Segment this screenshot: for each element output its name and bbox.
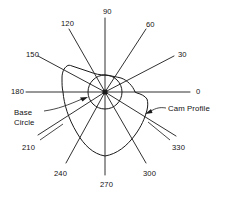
base-circle-leader-line — [44, 99, 82, 111]
radial-line-210 — [38, 92, 105, 135]
radial-line-30 — [105, 56, 174, 92]
angle-label-180: 180 — [11, 88, 24, 96]
angle-label-90: 90 — [103, 8, 112, 16]
cam-profile-label: Cam Profile — [168, 105, 210, 113]
diagram-canvas — [0, 0, 231, 198]
base-circle-leader-arrowhead — [80, 97, 88, 102]
radial-line-330 — [105, 92, 176, 136]
angle-label-300: 300 — [143, 170, 156, 178]
angle-label-120: 120 — [61, 20, 74, 28]
angle-label-270: 270 — [100, 181, 113, 189]
cam-profile-polar-diagram: 0 30 60 90 120 150 180 210 240 270 300 3… — [0, 0, 231, 198]
angle-label-210: 210 — [22, 144, 35, 152]
cam-profile-leader — [145, 108, 166, 114]
base-circle-label-line2: Circle — [14, 118, 35, 128]
base-circle-label: Base Circle — [14, 108, 35, 127]
angle-330-leader — [148, 122, 170, 140]
radial-line-240 — [66, 92, 105, 163]
radial-angle-lines — [26, 18, 190, 175]
angle-330-leader-line — [148, 122, 170, 140]
cam-center-hub — [102, 89, 107, 94]
angle-label-330: 330 — [172, 144, 185, 152]
cam-profile-leader-line — [151, 108, 166, 111]
angle-label-0: 0 — [196, 88, 200, 96]
angle-label-30: 30 — [178, 51, 187, 59]
angle-label-240: 240 — [54, 170, 67, 178]
angle-label-60: 60 — [146, 21, 155, 29]
radial-line-60 — [105, 29, 146, 92]
base-circle-label-line1: Base — [14, 108, 35, 118]
angle-label-150: 150 — [26, 51, 39, 59]
